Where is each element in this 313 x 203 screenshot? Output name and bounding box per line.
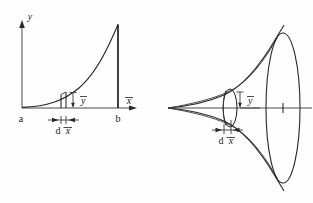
right-dx-left-arrowhead (216, 128, 223, 133)
x-axis-arrowhead (129, 105, 137, 110)
lower-limit-label: a (19, 113, 24, 124)
dx-label-d: d (56, 125, 61, 136)
right-dx-label-x: x (228, 135, 234, 146)
upper-limit-label: b (116, 113, 121, 124)
dx-left-arrowhead (52, 118, 59, 123)
dx-right-arrowhead (69, 118, 76, 123)
dx-label-x: x (65, 125, 71, 136)
x-axis-label: x (126, 95, 132, 106)
figure-canvas: y x a b y d x (0, 0, 313, 203)
right-dx-label-d: d (219, 135, 224, 146)
y-dimension-arrowhead (71, 103, 75, 108)
y-axis-arrowhead (19, 20, 25, 28)
left-diagram: y x a b y d x (19, 11, 137, 136)
right-y-dimension-arrowhead (238, 103, 242, 108)
y-axis-label: y (27, 11, 33, 22)
right-diagram: y d x (168, 25, 312, 191)
solid-upper-back-outline (168, 38, 277, 108)
figure-root: y x a b y d x (0, 0, 313, 203)
function-curve (22, 25, 118, 108)
strip-top-edge (61, 92, 66, 95)
